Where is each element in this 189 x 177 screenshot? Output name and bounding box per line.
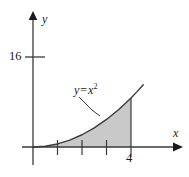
x-axis-label: x	[173, 127, 178, 139]
y-tick-label-16: 16	[9, 50, 22, 63]
equation-exponent: 2	[93, 82, 97, 91]
x-tick-label-4: 4	[126, 152, 132, 165]
curve-equation-label: y=x2	[74, 84, 97, 96]
equation-operator: =	[79, 83, 88, 97]
shaded-area-region	[33, 98, 131, 147]
y-axis-arrow-icon	[29, 11, 38, 20]
y-axis-label: y	[42, 13, 47, 25]
figure-container: y x 16 4 y=x2	[0, 0, 189, 177]
x-axis-arrow-icon	[173, 143, 183, 152]
annotation-leader-line	[79, 97, 100, 116]
